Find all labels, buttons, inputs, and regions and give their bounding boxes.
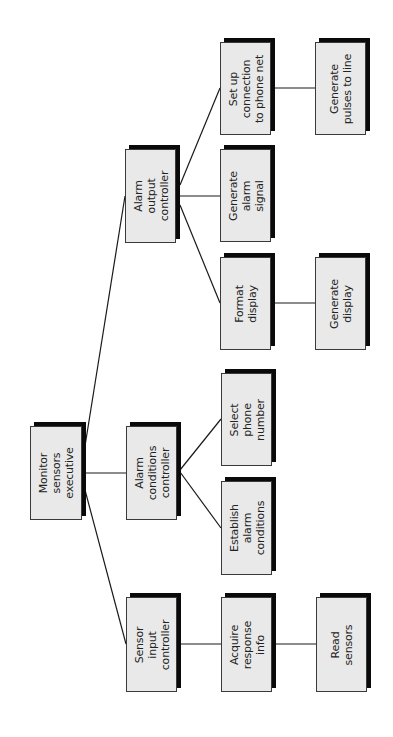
node-label: Format display: [233, 259, 259, 349]
node-label: Monitor sensors executive: [37, 428, 76, 518]
node-box: Set up connection to phone net: [220, 42, 271, 135]
edge-monitor-to-sensor-input: [85, 490, 126, 644]
node-label: Generate display: [328, 259, 354, 349]
edge-alarm-output-to-setup-connection: [180, 88, 220, 185]
node-generate-display: Generate display: [315, 257, 366, 350]
node-alarm-conditions: Alarm conditions controller: [126, 426, 177, 520]
node-setup-connection: Set up connection to phone net: [220, 42, 271, 135]
node-read-sensors: Read sensors: [316, 597, 367, 692]
node-label: Set up connection to phone net: [226, 44, 265, 134]
node-box: Generate display: [315, 257, 366, 350]
node-acquire-response: Acquire response info: [221, 597, 272, 692]
node-generate-alarm: Generate alarm signal: [220, 149, 271, 242]
node-box: Sensor input controller: [126, 597, 177, 692]
edge-alarm-conditions-to-establish-alarm: [180, 472, 221, 528]
node-box: Select phone number: [221, 373, 272, 466]
node-box: Format display: [220, 257, 271, 350]
edge-alarm-conditions-to-select-phone: [180, 419, 221, 470]
node-box: Read sensors: [316, 597, 367, 692]
node-establish-alarm: Establish alarm conditions: [221, 481, 272, 575]
node-box: Generate pulses to line: [315, 42, 366, 135]
node-box: Generate alarm signal: [220, 149, 271, 242]
node-label: Generate alarm signal: [226, 151, 265, 241]
node-label: Establish alarm conditions: [227, 483, 266, 573]
node-box: Establish alarm conditions: [221, 481, 272, 575]
node-box: Alarm conditions controller: [126, 426, 177, 520]
node-label: Sensor input controller: [132, 600, 171, 690]
node-box: Alarm output controller: [125, 149, 176, 243]
edge-monitor-to-alarm-output: [85, 196, 125, 446]
hierarchy-diagram: Monitor sensors executiveSensor input co…: [0, 0, 393, 737]
node-label: Select phone number: [227, 375, 266, 465]
node-format-display: Format display: [220, 257, 271, 350]
edge-alarm-output-to-format-display: [180, 205, 220, 303]
node-label: Acquire response info: [227, 600, 266, 690]
node-box: Monitor sensors executive: [30, 426, 82, 520]
node-label: Generate pulses to line: [328, 44, 354, 134]
node-label: Read sensors: [329, 600, 355, 690]
node-alarm-output: Alarm output controller: [125, 149, 176, 243]
node-generate-pulses: Generate pulses to line: [315, 42, 366, 135]
node-label: Alarm output controller: [131, 151, 170, 241]
node-box: Acquire response info: [221, 597, 272, 692]
node-sensor-input: Sensor input controller: [126, 597, 177, 692]
node-label: Alarm conditions controller: [132, 428, 171, 518]
node-select-phone: Select phone number: [221, 373, 272, 466]
node-monitor: Monitor sensors executive: [30, 426, 82, 520]
